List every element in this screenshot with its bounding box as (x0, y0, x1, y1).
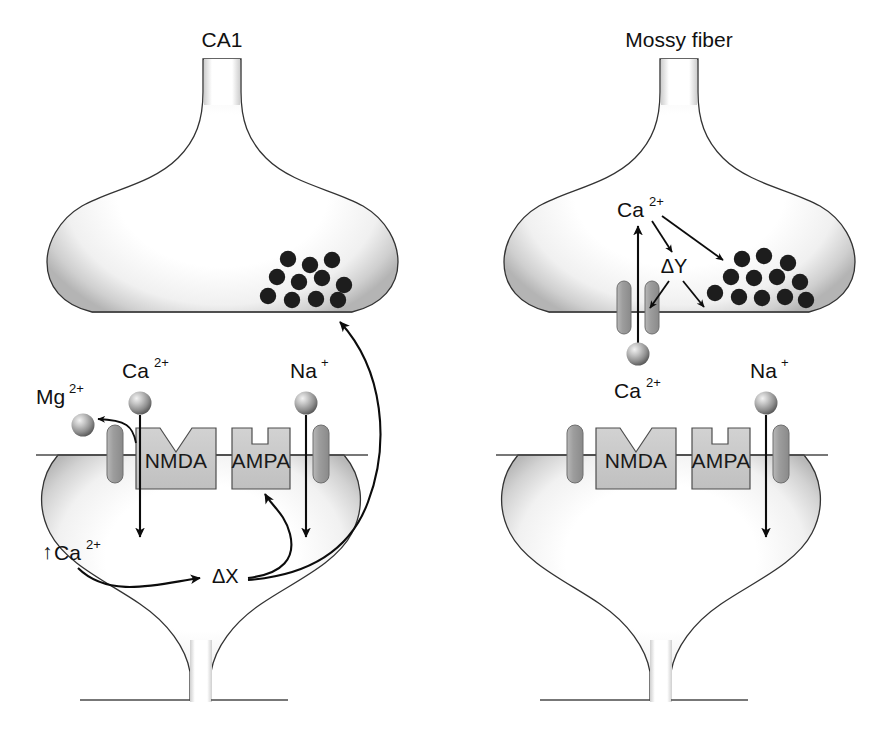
mg-label-base: Mg (36, 385, 65, 408)
mossy-ca-base: Ca (617, 198, 644, 221)
mossy-ca-ion-sphere (627, 343, 650, 366)
mossy-ca-out-sup: 2+ (646, 375, 661, 390)
mossy-na-sup: + (781, 355, 789, 370)
ca-label-sup: 2+ (154, 355, 169, 370)
nmda-label: NMDA (145, 449, 208, 472)
ca-rise-base: Ca (54, 541, 81, 564)
delta-y-label: ΔY (661, 255, 688, 277)
nmda-label: NMDA (605, 449, 668, 472)
na-label-base: Na (290, 359, 317, 382)
ca-ion-sphere (129, 392, 152, 415)
mossy-ca-out-base: Ca (614, 379, 641, 402)
ca1-channel-right (313, 425, 329, 483)
ca1-panel-title: CA1 (202, 28, 243, 51)
ampa-label: AMPA (232, 449, 291, 472)
spine-neck-shading (650, 640, 672, 702)
spine-neck-shading (190, 640, 212, 702)
axon-neck-shading (204, 59, 240, 105)
mossy-channel-left (567, 425, 583, 483)
figure-root: NMDA AMPA Mg 2+ Ca 2+ Na + (0, 0, 890, 734)
delta-x-label: ΔX (212, 565, 239, 587)
ampa-label: AMPA (692, 449, 751, 472)
mossy-na-base: Na (750, 359, 777, 382)
synapse-diagram: NMDA AMPA Mg 2+ Ca 2+ Na + (0, 0, 890, 734)
ca-label-base: Ca (122, 359, 149, 382)
mossy-na-ion-sphere (755, 392, 778, 415)
na-label-sup: + (321, 355, 329, 370)
ca1-channel-left (107, 425, 123, 483)
na-ion-sphere (295, 392, 318, 415)
mossy-presynaptic-channel-left (617, 281, 631, 334)
mg-ion-sphere (72, 414, 95, 437)
mg-label-sup: 2+ (69, 381, 84, 396)
ca-rise-arrow-glyph: ↑ (42, 540, 53, 563)
mossy-panel-title: Mossy fiber (625, 28, 732, 51)
ca-rise-sup: 2+ (86, 537, 101, 552)
axon-neck-shading (661, 59, 697, 105)
mossy-ca-sup: 2+ (649, 194, 664, 209)
mossy-channel-right (773, 425, 789, 483)
mossy-presynaptic-channel-right (645, 281, 659, 334)
